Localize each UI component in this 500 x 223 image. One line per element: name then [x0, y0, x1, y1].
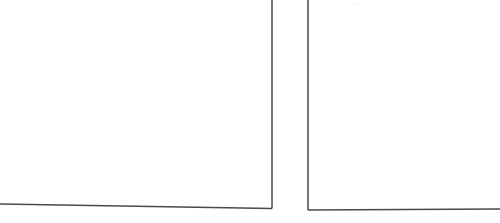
frame-rules-layer [0, 0, 500, 223]
right-frame [308, 0, 500, 210]
left-frame [0, 0, 272, 209]
right-frame-horizontal-rule [308, 209, 500, 210]
left-frame-horizontal-rule [0, 204, 272, 209]
scanned-page-canvas [0, 0, 500, 223]
